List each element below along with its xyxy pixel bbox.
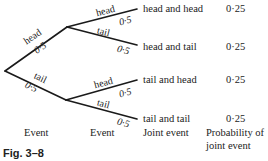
joint-prob-head-tail: 0·25 <box>226 42 245 53</box>
joint-event-head-tail: head and tail <box>143 42 197 53</box>
column-header-joint-event: Joint event <box>143 128 189 139</box>
column-header-probability-line2: joint event <box>206 141 251 152</box>
joint-prob-tail-tail: 0·25 <box>226 114 245 125</box>
joint-prob-tail-head: 0·25 <box>226 75 245 86</box>
joint-event-tail-head: tail and head <box>143 75 197 86</box>
joint-prob-head-head: 0·25 <box>226 4 245 15</box>
column-header-event-1: Event <box>24 128 49 139</box>
figure-caption: Fig. 3–8 <box>3 148 44 159</box>
joint-event-tail-tail: tail and tail <box>143 114 190 125</box>
column-header-event-2: Event <box>90 128 115 139</box>
joint-event-head-head: head and head <box>143 4 203 15</box>
column-header-probability: Probability of <box>206 128 264 139</box>
